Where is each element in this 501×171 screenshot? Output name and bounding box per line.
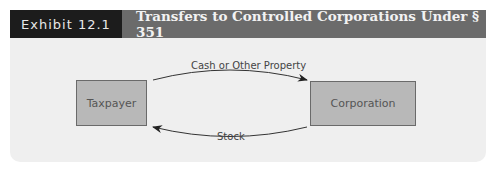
taxpayer-node: Taxpayer [76,80,147,126]
diagram-panel: Taxpayer Corporation Cash or Other Prope… [10,38,486,162]
arrow-to-corporation [153,70,307,80]
edge-label-cash-property: Cash or Other Property [191,60,306,71]
corporation-node: Corporation [310,81,416,126]
exhibit-number: Exhibit 12.1 [10,10,122,38]
exhibit-header: Exhibit 12.1 Transfers to Controlled Cor… [10,10,486,38]
edge-label-stock: Stock [217,131,245,142]
exhibit-title: Transfers to Controlled Corporations Und… [122,10,486,38]
